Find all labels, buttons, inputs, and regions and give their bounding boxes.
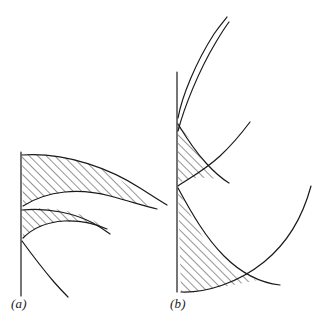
- caustic-diagram: [0, 0, 335, 326]
- panel-b-caption: (b): [170, 296, 186, 312]
- panel-a-caption: (a): [11, 296, 27, 312]
- figure-container: (a) (b): [0, 0, 335, 326]
